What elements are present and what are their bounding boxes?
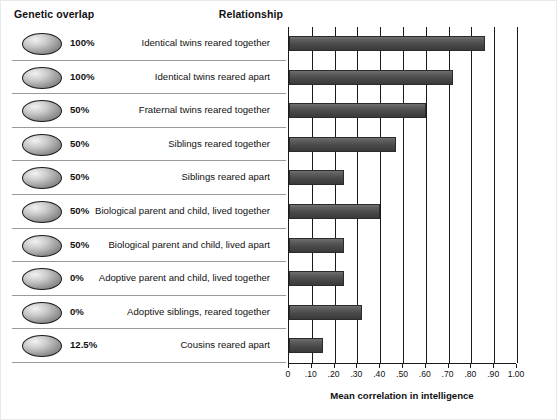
bar [289,238,344,253]
x-tick [402,364,403,368]
x-tick [288,364,289,368]
column-header-genetic-overlap: Genetic overlap [14,8,94,20]
x-tick-label: .10 [305,369,317,379]
genetic-overlap-value: 50% [70,239,89,250]
relationship-label: Adoptive parent and child, lived togethe… [99,272,270,283]
genetic-overlap-value: 12.5% [70,339,97,350]
bar [289,170,344,185]
row-divider [12,362,286,363]
genetic-overlap-icon [22,67,62,89]
genetic-overlap-value: 0% [70,306,84,317]
bar [289,338,323,353]
genetic-overlap-icon [22,134,62,156]
bar [289,204,380,219]
genetic-overlap-icon [22,33,62,55]
relationship-label: Biological parent and child, lived apart [108,239,270,250]
genetic-overlap-icon [22,201,62,223]
genetic-overlap-value: 0% [70,272,84,283]
x-tick-label: .30 [350,369,362,379]
bar [289,70,453,85]
genetic-overlap-value: 50% [70,104,89,115]
genetic-overlap-icon [22,302,62,324]
relationship-label: Adoptive siblings, reared together [127,306,270,317]
x-tick [356,364,357,368]
gridline [517,27,518,363]
genetic-overlap-icon [22,167,62,189]
bar [289,271,344,286]
x-tick [516,364,517,368]
oval-shape-icon [22,201,62,223]
x-tick [493,364,494,368]
relationship-label: Siblings reared apart [181,171,270,182]
x-tick [425,364,426,368]
oval-shape-icon [22,67,62,89]
oval-shape-icon [22,167,62,189]
oval-shape-icon [22,335,62,357]
genetic-overlap-icon [22,268,62,290]
oval-shape-icon [22,33,62,55]
x-tick-label: .90 [487,369,499,379]
x-tick [448,364,449,368]
gridline [471,27,472,363]
bar [289,103,426,118]
relationship-label: Fraternal twins reared together [139,104,270,115]
x-tick [470,364,471,368]
genetic-overlap-value: 50% [70,171,89,182]
relationship-label: Identical twins reared together [141,37,270,48]
genetic-overlap-icon [22,100,62,122]
x-axis-title: Mean correlation in intelligence [288,390,516,401]
genetic-overlap-value: 50% [70,205,89,216]
plot-area [288,27,516,363]
oval-shape-icon [22,100,62,122]
oval-shape-icon [22,302,62,324]
genetic-overlap-icon [22,335,62,357]
x-tick-label: 0 [286,369,291,379]
column-header-relationship: Relationship [173,8,283,20]
x-tick-label: .50 [396,369,408,379]
x-tick-label: .20 [328,369,340,379]
x-tick [379,364,380,368]
bar [289,137,396,152]
x-tick-label: .60 [419,369,431,379]
x-tick-label: .70 [442,369,454,379]
gridline [494,27,495,363]
oval-shape-icon [22,235,62,257]
relationship-label: Siblings reared together [168,138,270,149]
genetic-overlap-value: 50% [70,138,89,149]
relationship-label: Cousins reared apart [180,339,270,350]
relationship-label: Identical twins reared apart [155,71,270,82]
x-tick-label: .40 [373,369,385,379]
oval-shape-icon [22,134,62,156]
genetic-overlap-value: 100% [70,71,95,82]
genetic-overlap-value: 100% [70,37,95,48]
bar [289,36,485,51]
relationship-label: Biological parent and child, lived toget… [95,205,270,216]
x-tick-label: .80 [464,369,476,379]
bar [289,305,362,320]
x-tick-label: 1.00 [508,369,525,379]
chart-figure: Genetic overlap Relationship 100%Identic… [0,0,557,420]
x-tick [311,364,312,368]
oval-shape-icon [22,268,62,290]
x-tick [334,364,335,368]
genetic-overlap-icon [22,235,62,257]
